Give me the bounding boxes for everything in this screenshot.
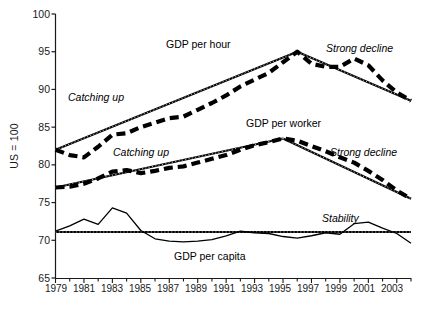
series-label-gdp-per-capita: GDP per capita xyxy=(174,250,246,262)
annotation-stability: Stability xyxy=(322,212,359,224)
annotation-strong-decline-worker: Strong decline xyxy=(330,146,397,158)
annotation-catching-up-worker: Catching up xyxy=(113,146,169,158)
annotation-strong-decline-hour: Strong decline xyxy=(326,42,393,54)
chart-figure: US = 100 100 95 90 85 80 75 70 65 GDP pe… xyxy=(0,0,421,314)
trend-lines xyxy=(56,52,412,232)
series-label-gdp-per-worker: GDP per worker xyxy=(246,117,321,129)
x-tick-label-2003: 2003 xyxy=(375,283,409,294)
annotation-catching-up-hour: Catching up xyxy=(68,91,124,103)
series-label-gdp-per-hour: GDP per hour xyxy=(166,38,231,50)
